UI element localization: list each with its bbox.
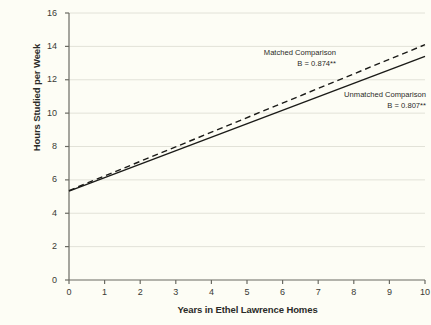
x-tick-label: 10 [413,288,431,297]
x-tick-label: 9 [377,288,401,297]
x-tick-label: 1 [93,288,117,297]
annotation-unmatched-comparison: Unmatched Comparison B = 0.807** [266,90,426,111]
y-tick-label: 2 [31,242,57,251]
x-tick-label: 4 [199,288,223,297]
x-tick-label: 8 [342,288,366,297]
y-tick-label: 10 [31,109,57,118]
line-unmatched-comparison [69,56,425,191]
x-tick-label: 5 [235,288,259,297]
annotation-unmatched-label: Unmatched Comparison [344,90,426,99]
annotation-unmatched-stat: B = 0.807** [266,101,426,112]
x-tick-label: 6 [271,288,295,297]
x-tick-label: 0 [57,288,81,297]
y-tick-label: 0 [31,276,57,285]
y-tick-label: 14 [31,42,57,51]
x-axis-title: Years in Ethel Lawrence Homes [69,304,426,315]
y-tick-label: 16 [31,9,57,18]
x-tick-label: 2 [128,288,152,297]
x-tick-label: 3 [164,288,188,297]
y-tick-label: 8 [31,142,57,151]
annotation-matched-label: Matched Comparison [264,48,336,57]
y-tick-label: 6 [31,175,57,184]
y-tick-label: 4 [31,209,57,218]
y-tick-label: 12 [31,75,57,84]
annotation-matched-comparison: Matched Comparison B = 0.874** [186,48,336,69]
annotation-matched-stat: B = 0.874** [186,59,336,70]
x-tick-label: 7 [306,288,330,297]
chart-figure: Hours Studied per Week 0246810121416 012… [0,0,431,325]
